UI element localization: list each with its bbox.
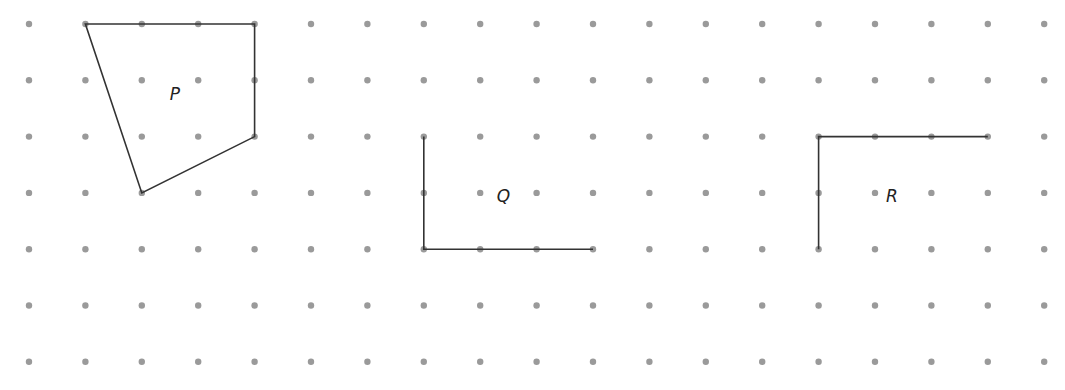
grid-dot (646, 21, 652, 27)
grid-dot (82, 190, 88, 196)
label-p: P (170, 84, 181, 104)
grid-dot (590, 190, 596, 196)
grid-dot (308, 77, 314, 83)
grid-dot (815, 77, 821, 83)
grid-dot (308, 21, 314, 27)
grid-dot (308, 302, 314, 308)
grid-dot (364, 359, 370, 365)
grid-dot (533, 21, 539, 27)
grid-dot (928, 359, 934, 365)
grid-dot (477, 133, 483, 139)
grid-dot (985, 77, 991, 83)
dot-grid-canvas: P Q R (0, 0, 1065, 390)
grid-dot (195, 190, 201, 196)
grid-dot (26, 190, 32, 196)
grid-dot (646, 190, 652, 196)
grid-dot (251, 302, 257, 308)
grid-dot (703, 21, 709, 27)
grid-dot (26, 77, 32, 83)
grid-dot (251, 246, 257, 252)
grid-dot (533, 190, 539, 196)
grid-dot (985, 302, 991, 308)
grid-dot (477, 77, 483, 83)
grid-dot (533, 133, 539, 139)
grid-dot (985, 246, 991, 252)
grid-dot (703, 133, 709, 139)
grid-dot (139, 133, 145, 139)
grid-dot (872, 246, 878, 252)
grid-dot (308, 359, 314, 365)
dot-grid-diagram: P Q R (0, 0, 1065, 390)
grid-dot (985, 21, 991, 27)
grid-dot (421, 77, 427, 83)
grid-dot (872, 190, 878, 196)
grid-dot (533, 359, 539, 365)
grid-dot (872, 359, 878, 365)
grid-dot (82, 246, 88, 252)
grid-dot (421, 302, 427, 308)
grid-dot (703, 190, 709, 196)
grid-dot (195, 302, 201, 308)
grid-dot (139, 302, 145, 308)
grid-dot (477, 302, 483, 308)
grid-dot (195, 246, 201, 252)
grid-dot (477, 359, 483, 365)
grid-dot (421, 359, 427, 365)
grid-dot (815, 21, 821, 27)
grid-dot (872, 77, 878, 83)
grid-dot (26, 133, 32, 139)
shape-r-open-path (819, 137, 988, 250)
grid-dot (590, 359, 596, 365)
grid-dot (928, 302, 934, 308)
grid-dot (590, 77, 596, 83)
grid-dot (928, 77, 934, 83)
grid-dot (26, 21, 32, 27)
grid-dot (82, 133, 88, 139)
grid-dot (646, 133, 652, 139)
grid-dot (26, 302, 32, 308)
grid-dot (82, 77, 88, 83)
grid-dot (364, 21, 370, 27)
grid-dot (308, 246, 314, 252)
grid-dot (139, 246, 145, 252)
grid-dot (1041, 359, 1047, 365)
grid-dot (703, 77, 709, 83)
grid-dot (533, 302, 539, 308)
grid-dot (646, 246, 652, 252)
grid-dot (533, 77, 539, 83)
grid-dot (1041, 302, 1047, 308)
grid-dot (308, 133, 314, 139)
grid-dot (364, 246, 370, 252)
grid-dot (364, 302, 370, 308)
grid-dot (26, 359, 32, 365)
grid-dot (815, 302, 821, 308)
grid-dot (139, 359, 145, 365)
grid-dot (421, 21, 427, 27)
grid-dot (759, 133, 765, 139)
grid-dot (703, 302, 709, 308)
grid-dot (759, 302, 765, 308)
grid-dot (308, 190, 314, 196)
grid-dot (759, 246, 765, 252)
grid-dot (364, 77, 370, 83)
grid-dot (703, 246, 709, 252)
grid-dot (646, 77, 652, 83)
grid-dot (139, 77, 145, 83)
grid-dot (928, 246, 934, 252)
grid-dot (1041, 190, 1047, 196)
grid-dot (82, 359, 88, 365)
grid-dot (928, 190, 934, 196)
grid-dot (872, 21, 878, 27)
grid-dot (364, 190, 370, 196)
grid-dot (1041, 133, 1047, 139)
grid-dot (251, 190, 257, 196)
grid-dot (195, 359, 201, 365)
label-q: Q (497, 186, 510, 206)
grid-dot (364, 133, 370, 139)
grid-dot (646, 359, 652, 365)
grid-dot (703, 359, 709, 365)
grid-dot (759, 359, 765, 365)
grid-dot (477, 190, 483, 196)
grid-dot (985, 359, 991, 365)
grid-dot (590, 302, 596, 308)
